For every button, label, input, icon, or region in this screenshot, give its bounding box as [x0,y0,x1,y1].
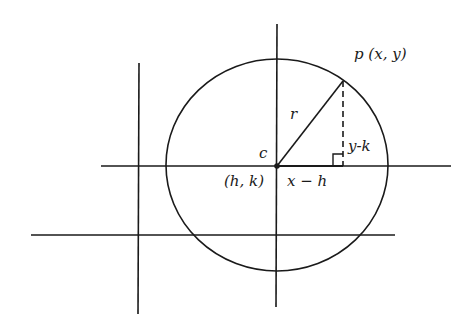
right-angle-marker [333,154,343,166]
center-name-label: c [259,146,267,161]
radius-label: r [290,107,297,122]
center-coords-label: (h, k) [224,174,264,189]
point-label: p (x, y) [354,47,407,62]
vertical-axis-left [138,63,139,314]
horizontal-leg-label: x − h [287,174,327,189]
center-point [274,163,280,169]
vertical-leg-label: y-k [348,139,371,154]
diagram-canvas: p (x, y) r c (h, k) x − h y-k [0,0,474,323]
radius-line [277,81,343,166]
